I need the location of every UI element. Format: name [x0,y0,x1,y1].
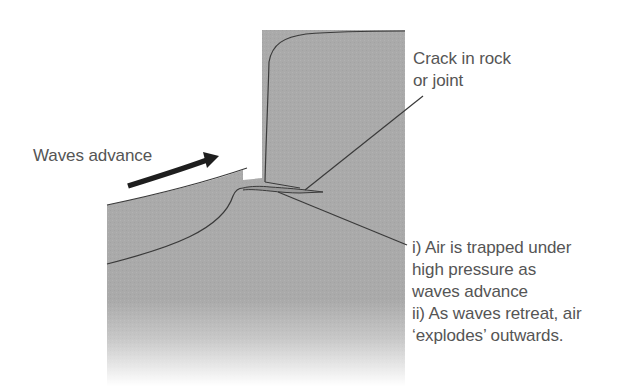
waves-advance-label: Waves advance [33,145,152,167]
explanation-line-2: high pressure as [412,259,581,281]
crack-label-line-1: Crack in rock [413,48,511,70]
air-pressure-explanation: i) Air is trapped under high pressure as… [412,237,581,347]
explanation-line-3: waves advance [412,281,581,303]
cliff-block [262,31,405,180]
crack-label: Crack in rock or joint [413,48,511,92]
explanation-line-1: i) Air is trapped under [412,237,581,259]
bottom-fade [100,300,420,386]
waves-advance-text: Waves advance [33,146,152,165]
crack-label-line-2: or joint [413,70,511,92]
explanation-line-4: ii) As waves retreat, air [412,303,581,325]
explanation-line-5: ‘explodes’ outwards. [412,325,581,347]
